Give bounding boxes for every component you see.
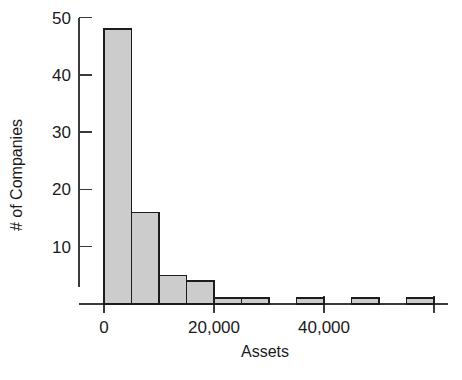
x-tick-label: 0	[99, 318, 108, 337]
histogram-bar	[407, 298, 435, 304]
y-axis-title: # of Companies	[8, 119, 25, 231]
histogram-bar	[187, 281, 215, 304]
histogram-bar	[352, 298, 380, 304]
histogram-bar	[104, 29, 132, 304]
histogram-bar	[297, 298, 325, 304]
y-tick-label: 30	[52, 123, 71, 142]
x-tick-label: 40,000	[298, 318, 350, 337]
y-tick-group: 1020304050	[52, 9, 92, 257]
x-axis-title: Assets	[241, 343, 289, 360]
histogram-figure: # of Companies 1020304050 020,00040,000 …	[0, 0, 462, 380]
histogram-chart: # of Companies 1020304050 020,00040,000 …	[0, 0, 462, 380]
y-tick-label: 10	[52, 238, 71, 257]
histogram-bar	[132, 212, 160, 304]
histogram-bar	[214, 298, 242, 304]
y-tick-label: 20	[52, 180, 71, 199]
y-axis: 1020304050	[52, 9, 92, 288]
histogram-bar	[159, 275, 187, 304]
histogram-bar	[242, 298, 270, 304]
x-tick-label: 20,000	[188, 318, 240, 337]
y-tick-label: 50	[52, 9, 71, 28]
bar-group	[104, 29, 434, 304]
y-tick-label: 40	[52, 66, 71, 85]
